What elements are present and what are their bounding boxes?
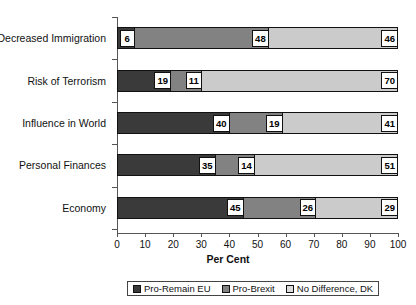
- legend-swatch-icon: [286, 285, 294, 293]
- x-axis-tick: [201, 233, 202, 237]
- bar-row: 64846: [117, 27, 398, 49]
- legend-item-pro-remain-eu: Pro-Remain EU: [133, 283, 211, 294]
- bar-segment: 51: [255, 155, 397, 175]
- bar-row: 191170: [117, 70, 398, 92]
- x-axis-tick: [117, 233, 118, 237]
- bar-segment: 19: [230, 113, 283, 133]
- bar-value-label: 51: [381, 157, 398, 174]
- x-axis-title: Per Cent: [206, 253, 249, 265]
- bar-segment: 11: [171, 71, 202, 91]
- x-axis-tick-label: 40: [224, 239, 235, 250]
- y-axis-tick: [112, 102, 117, 103]
- bar-segment: 40: [118, 113, 230, 133]
- bar-segment: 41: [283, 113, 397, 133]
- category-label: Personal Finances: [19, 159, 106, 171]
- bar-value-label: 41: [381, 115, 398, 132]
- bar-value-label: 48: [252, 30, 269, 47]
- bar-value-label: 19: [266, 115, 283, 132]
- bar-value-label: 70: [381, 72, 398, 89]
- bar-value-label: 26: [300, 199, 317, 216]
- bar-value-label: 45: [227, 199, 244, 216]
- legend-label: Pro-Remain EU: [144, 283, 211, 294]
- category-label: Decreased Immigration: [0, 32, 106, 44]
- x-axis-title-wrap: Per Cent: [0, 253, 416, 265]
- bar-segment: 29: [316, 198, 397, 218]
- bar-row: 452629: [117, 197, 398, 219]
- stacked-bar-chart: Decreased ImmigrationRisk of TerrorismIn…: [0, 0, 416, 305]
- x-axis-tick: [258, 233, 259, 237]
- y-axis-tick: [112, 229, 117, 230]
- x-axis-tick-label: 100: [390, 239, 407, 250]
- category-label: Influence in World: [22, 117, 106, 129]
- x-axis-tick: [398, 233, 399, 237]
- y-axis-tick: [112, 187, 117, 188]
- bar-value-label: 14: [238, 157, 255, 174]
- bar-segment: 6: [118, 28, 135, 48]
- x-axis-tick-label: 80: [336, 239, 347, 250]
- x-axis-tick-label: 10: [140, 239, 151, 250]
- category-label: Risk of Terrorism: [27, 75, 106, 87]
- legend-item-pro-brexit: Pro-Brexit: [222, 283, 275, 294]
- bar-value-label: 19: [154, 72, 171, 89]
- bar-segment: 19: [118, 71, 171, 91]
- chart-legend: Pro-Remain EU Pro-Brexit No Difference, …: [127, 281, 379, 296]
- x-axis-tick-label: 20: [168, 239, 179, 250]
- x-axis-tick: [145, 233, 146, 237]
- bar-value-label: 11: [186, 72, 202, 89]
- category-label: Economy: [62, 202, 106, 214]
- y-axis-tick: [112, 59, 117, 60]
- bar-segment: 46: [269, 28, 397, 48]
- plot-area: 64846191170401941351451452629: [117, 17, 398, 229]
- legend-label: Pro-Brexit: [233, 283, 275, 294]
- x-axis-tick-label: 90: [364, 239, 375, 250]
- x-axis-tick-label: 60: [280, 239, 291, 250]
- x-axis-tick-label: 0: [114, 239, 120, 250]
- bar-segment: 48: [135, 28, 269, 48]
- bar-row: 351451: [117, 154, 398, 176]
- bar-row: 401941: [117, 112, 398, 134]
- bar-segment: 14: [216, 155, 255, 175]
- x-axis-tick: [370, 233, 371, 237]
- bar-segment: 45: [118, 198, 244, 218]
- x-axis-tick-label: 70: [308, 239, 319, 250]
- y-axis-tick: [112, 17, 117, 18]
- legend-swatch-icon: [133, 285, 141, 293]
- x-axis-tick: [173, 233, 174, 237]
- x-axis-tick: [314, 233, 315, 237]
- bar-segment: 26: [244, 198, 317, 218]
- bar-value-label: 40: [213, 115, 230, 132]
- bar-value-label: 35: [199, 157, 216, 174]
- legend-item-no-difference-dk: No Difference, DK: [286, 283, 373, 294]
- x-axis-tick: [286, 233, 287, 237]
- bar-segment: 35: [118, 155, 216, 175]
- legend-swatch-icon: [222, 285, 230, 293]
- bar-value-label: 29: [381, 199, 398, 216]
- x-axis-tick-label: 30: [196, 239, 207, 250]
- bar-value-label: 6: [120, 30, 135, 47]
- legend-label: No Difference, DK: [297, 283, 373, 294]
- x-axis-tick: [342, 233, 343, 237]
- category-axis-labels: Decreased ImmigrationRisk of TerrorismIn…: [0, 17, 112, 229]
- x-axis-tick-label: 50: [252, 239, 263, 250]
- bar-value-label: 46: [381, 30, 398, 47]
- bar-segment: 70: [202, 71, 397, 91]
- y-axis-tick: [112, 144, 117, 145]
- x-axis-tick: [229, 233, 230, 237]
